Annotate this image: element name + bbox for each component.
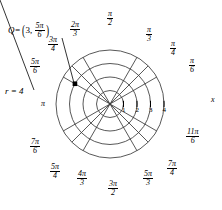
- angle-label-pi-over-3-den: 3: [146, 35, 152, 43]
- angle-label-seven-pi-over-4-fraction: 7π4: [167, 160, 177, 177]
- angle-label-pi-over-6: π6: [189, 57, 195, 74]
- angle-label-seven-pi-over-4-den: 4: [167, 169, 177, 177]
- point-label-open-paren: (: [22, 23, 25, 38]
- angular-gridlines: [63, 57, 157, 151]
- angle-label-pi-over-6-den: 6: [189, 66, 195, 74]
- angle-label-five-pi-over-4: 5π4: [50, 163, 60, 180]
- angle-label-pi-over-4-den: 4: [170, 49, 176, 57]
- angle-label-five-pi-over-3-den: 3: [143, 179, 153, 187]
- angle-label-pi-over-4: π4: [170, 40, 176, 57]
- point-label-equals: =: [15, 25, 21, 35]
- angle-label-three-pi-over-4-den: 4: [48, 45, 58, 53]
- point-label-Q: Q=(3, 5π 6 ): [8, 22, 50, 39]
- angle-label-two-pi-over-3-fraction: 2π3: [70, 21, 80, 38]
- x-axis-label: x: [211, 96, 215, 104]
- angle-label-four-pi-over-3-fraction: 4π3: [77, 170, 87, 187]
- angle-label-three-pi-over-2-fraction: 3π2: [108, 180, 118, 197]
- point-label-theta-den: 6: [35, 31, 45, 39]
- angle-label-two-pi-over-3: 2π3: [70, 21, 80, 38]
- x-tick-label-3: 3: [149, 107, 153, 114]
- angle-label-pi-over-3-fraction: π3: [146, 26, 152, 43]
- angle-label-pi: π: [41, 100, 45, 108]
- angle-label-three-pi-over-4: 3π4: [48, 36, 58, 53]
- angle-label-seven-pi-over-6: 7π6: [30, 138, 40, 155]
- angle-label-three-pi-over-2-den: 2: [108, 189, 118, 197]
- x-tick-label-2: 2: [136, 107, 140, 114]
- angle-label-five-pi-over-3: 5π3: [143, 170, 153, 187]
- angle-label-five-pi-over-3-fraction: 5π3: [143, 170, 153, 187]
- point-label-theta: 5π 6: [35, 22, 45, 39]
- angle-label-pi-over-2-fraction: π2: [107, 10, 113, 27]
- angle-label-four-pi-over-3-den: 3: [77, 179, 87, 187]
- radius-callout-label: r = 4: [5, 86, 24, 96]
- x-tick-label-4: 4: [163, 107, 167, 114]
- polar-diagram: Q=(3, 5π 6 ) r = 4 x π6π4π3π22π33π45π6π7…: [0, 0, 222, 210]
- point-label-comma: ,: [30, 25, 32, 35]
- angle-label-seven-pi-over-4: 7π4: [167, 160, 177, 177]
- angle-label-seven-pi-over-6-fraction: 7π6: [30, 138, 40, 155]
- angle-label-five-pi-over-4-fraction: 5π4: [50, 163, 60, 180]
- angle-label-eleven-pi-over-6-den: 6: [186, 137, 199, 145]
- angle-label-two-pi-over-3-den: 3: [70, 30, 80, 38]
- angle-label-three-pi-over-2: 3π2: [108, 180, 118, 197]
- angle-label-five-pi-over-6-den: 6: [30, 67, 40, 75]
- angle-label-pi-over-6-fraction: π6: [189, 57, 195, 74]
- angle-label-three-pi-over-4-fraction: 3π4: [48, 36, 58, 53]
- angle-label-pi-over-4-fraction: π4: [170, 40, 176, 57]
- angle-label-eleven-pi-over-6: 11π6: [186, 128, 199, 145]
- axis-ticks: [124, 101, 165, 107]
- angle-label-five-pi-over-6: 5π6: [30, 58, 40, 75]
- angle-label-five-pi-over-4-den: 4: [50, 172, 60, 180]
- angle-label-pi-over-2: π2: [107, 10, 113, 27]
- radius-callout-line: [0, 0, 34, 90]
- x-tick-label-1: 1: [122, 107, 126, 114]
- angle-label-eleven-pi-over-6-fraction: 11π6: [186, 128, 199, 145]
- angle-label-seven-pi-over-6-den: 6: [30, 147, 40, 155]
- angle-label-pi-over-3: π3: [146, 26, 152, 43]
- angle-label-five-pi-over-6-fraction: 5π6: [30, 58, 40, 75]
- angle-label-pi-over-2-den: 2: [107, 19, 113, 27]
- plotted-point-Q: [73, 81, 78, 86]
- angle-label-four-pi-over-3: 4π3: [77, 170, 87, 187]
- angle-label-pi-text: π: [41, 99, 45, 108]
